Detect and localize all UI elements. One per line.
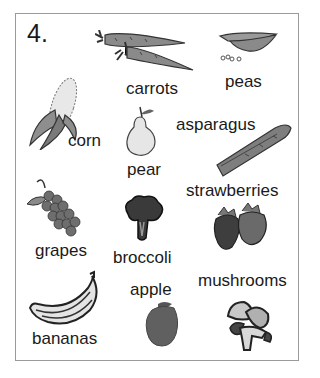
- label-pear: pear: [127, 160, 161, 180]
- asparagus-icon: [215, 120, 295, 178]
- pear-icon: [124, 105, 160, 157]
- label-apple: apple: [130, 280, 172, 300]
- strawberries-icon: [212, 203, 272, 255]
- mushrooms-icon: [224, 298, 274, 356]
- label-carrots: carrots: [126, 79, 178, 99]
- grapes-icon: [25, 176, 87, 238]
- label-bananas: bananas: [32, 329, 97, 349]
- label-peas: peas: [225, 72, 262, 92]
- exercise-number: 4.: [27, 18, 48, 48]
- bananas-icon: [28, 270, 100, 328]
- label-corn: corn: [68, 131, 101, 151]
- label-mushrooms: mushrooms: [198, 271, 287, 291]
- carrots-icon: [95, 30, 195, 75]
- label-strawberries: strawberries: [186, 181, 279, 201]
- broccoli-icon: [122, 194, 164, 242]
- apple-icon: [144, 300, 180, 348]
- label-broccoli: broccoli: [113, 248, 172, 268]
- peas-icon: [218, 31, 280, 63]
- label-grapes: grapes: [35, 241, 87, 261]
